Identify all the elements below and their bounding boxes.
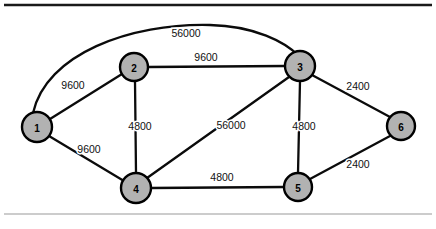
node-4-label: 4 <box>133 184 139 195</box>
node-2-label: 2 <box>131 63 137 74</box>
edge-1-3-line[interactable] <box>33 25 299 113</box>
node-1[interactable]: 1 <box>22 112 52 142</box>
edge-label-1-4-text: 9600 <box>77 143 101 155</box>
edge-label-4-5: 4800 4800 <box>210 171 234 183</box>
network-diagram-canvas: 56000 56000 9600 9600 9600 9600 9600 960… <box>0 0 436 229</box>
edge-label-5-6: 2400 2400 <box>346 158 370 170</box>
edge-label-3-4: 56000 56000 <box>216 119 245 131</box>
node-1-label: 1 <box>34 123 40 134</box>
edge-label-1-3: 56000 56000 <box>171 27 200 39</box>
edge-label-2-3-text: 9600 <box>194 51 218 63</box>
edge-label-5-6-text: 2400 <box>346 158 370 170</box>
node-5[interactable]: 5 <box>284 173 312 201</box>
edge-label-layer: 56000 56000 9600 9600 9600 9600 9600 960… <box>61 27 370 183</box>
edge-2-3-line[interactable] <box>148 66 285 67</box>
node-6-label: 6 <box>398 122 404 133</box>
edge-label-3-5: 4800 4800 <box>292 120 316 132</box>
node-6[interactable]: 6 <box>387 112 415 140</box>
edge-label-2-4: 4800 4800 <box>128 120 152 132</box>
node-5-label: 5 <box>295 183 301 194</box>
node-3[interactable]: 3 <box>285 51 315 81</box>
edge-label-2-3: 9600 9600 <box>194 51 218 63</box>
edge-label-3-6: 2400 2400 <box>346 80 370 92</box>
node-4[interactable]: 4 <box>121 173 151 203</box>
edge-label-3-4-text: 56000 <box>216 119 245 131</box>
edge-layer <box>33 25 390 188</box>
edge-4-5-line[interactable] <box>151 187 284 188</box>
edge-label-3-6-text: 2400 <box>346 80 370 92</box>
edge-label-2-4-text: 4800 <box>128 120 152 132</box>
network-diagram-figure: 56000 56000 9600 9600 9600 9600 9600 960… <box>0 0 436 229</box>
edge-label-1-4: 9600 9600 <box>77 143 101 155</box>
edge-label-3-5-text: 4800 <box>292 120 316 132</box>
edge-label-1-2: 9600 9600 <box>61 79 85 91</box>
node-3-label: 3 <box>297 62 303 73</box>
edge-label-1-3-text: 56000 <box>171 27 200 39</box>
node-2[interactable]: 2 <box>120 53 148 81</box>
edge-label-4-5-text: 4800 <box>210 171 234 183</box>
edge-label-1-2-text: 9600 <box>61 79 85 91</box>
